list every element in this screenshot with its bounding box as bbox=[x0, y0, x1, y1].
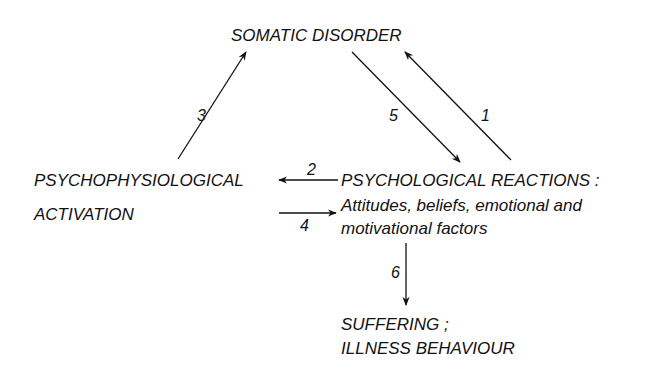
node-psychophysiological-line1: PSYCHOPHYSIOLOGICAL bbox=[34, 172, 244, 189]
edge-5-arrow bbox=[352, 52, 460, 162]
edge-label-1: 1 bbox=[481, 108, 490, 124]
node-psychophysiological-line2: ACTIVATION bbox=[34, 206, 134, 223]
node-psychological-line2: Attitudes, beliefs, emotional and bbox=[341, 197, 582, 214]
edge-1-arrow bbox=[405, 52, 511, 160]
edge-label-4: 4 bbox=[300, 218, 309, 234]
diagram-canvas: SOMATIC DISORDER PSYCHOPHYSIOLOGICAL ACT… bbox=[0, 0, 663, 377]
node-psychological-line3: motivational factors bbox=[341, 220, 487, 237]
node-psychological-line1: PSYCHOLOGICAL REACTIONS : bbox=[341, 172, 600, 189]
edge-label-5: 5 bbox=[389, 108, 398, 124]
edge-3-arrow bbox=[178, 52, 246, 159]
node-suffering-line1: SUFFERING ; bbox=[341, 316, 449, 333]
edge-label-3: 3 bbox=[197, 108, 206, 124]
edge-label-6: 6 bbox=[391, 265, 400, 281]
node-suffering-line2: ILLNESS BEHAVIOUR bbox=[341, 340, 515, 357]
node-somatic-disorder: SOMATIC DISORDER bbox=[231, 27, 402, 44]
edge-label-2: 2 bbox=[307, 162, 316, 178]
